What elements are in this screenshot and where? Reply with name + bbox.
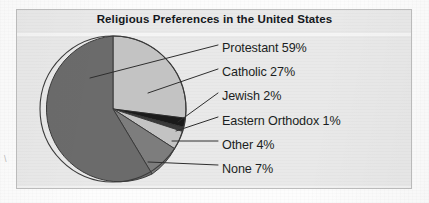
pie-label-catholic: Catholic 27% (222, 60, 412, 84)
scan-artifact-mark: \ (4, 156, 8, 163)
pie-label-none: None 7% (222, 157, 412, 181)
pie-slices (40, 36, 186, 182)
pie-slice-catholic (113, 36, 186, 118)
pie-label-other: Other 4% (222, 133, 412, 157)
pie-label-protestant: Protestant 59% (222, 36, 412, 60)
pie-label-jewish: Jewish 2% (222, 84, 412, 108)
pie-label-list: Protestant 59% Catholic 27% Jewish 2% Ea… (222, 36, 412, 181)
pie-label-eastern-orthodox: Eastern Orthodox 1% (222, 109, 412, 133)
chart-screenshot: Religious Preferences in the United Stat… (0, 0, 429, 203)
